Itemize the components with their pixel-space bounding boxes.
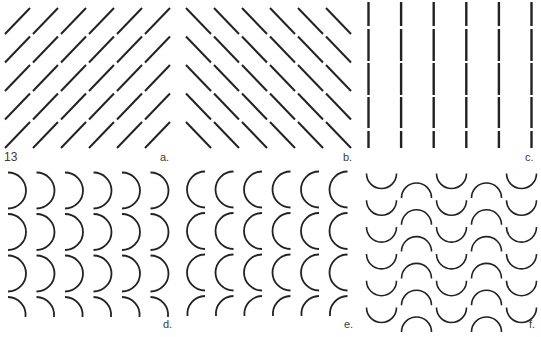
cup-arc (437, 174, 467, 189)
left-arc (330, 213, 348, 249)
right-arc (37, 214, 55, 250)
diagonal-segment (326, 65, 351, 91)
partial-left-arc (330, 296, 348, 316)
cup-arc (507, 254, 537, 269)
panel-e-left-arcs (187, 172, 348, 317)
cup-arc (437, 254, 467, 269)
diagonal-segment (298, 8, 323, 34)
diagonal-segment (117, 94, 142, 120)
diagonal-segment (89, 94, 114, 120)
right-arc (8, 173, 26, 209)
diagonal-segment (5, 94, 30, 120)
diagonal-segment (242, 94, 267, 120)
left-arc (216, 172, 234, 208)
right-arc (122, 214, 140, 250)
right-arc (8, 214, 26, 250)
right-arc (37, 256, 55, 292)
right-arc (151, 173, 169, 209)
diagonal-segment (214, 94, 239, 120)
right-arc (37, 173, 55, 209)
diagonal-segment (33, 94, 58, 120)
diagonal-segment (61, 94, 86, 120)
diagonal-segment (242, 65, 267, 91)
diagonal-segment (326, 94, 351, 120)
cup-arc (367, 254, 397, 269)
cup-arc (437, 308, 467, 323)
cup-arc (437, 227, 467, 242)
diagonal-segment (298, 65, 323, 91)
cap-arc (472, 317, 502, 332)
left-arc (301, 172, 319, 208)
cup-arc (507, 227, 537, 242)
diagonal-segment (117, 122, 142, 148)
cup-arc (507, 200, 537, 215)
diagonal-segment (117, 8, 142, 34)
left-arc (244, 255, 262, 291)
left-arc (301, 213, 319, 249)
diagonal-segment (145, 8, 170, 34)
diagonal-segment (33, 8, 58, 34)
diagonal-segment (186, 94, 211, 120)
partial-left-arc (273, 296, 291, 316)
left-arc (244, 213, 262, 249)
cap-arc (472, 290, 502, 305)
diagonal-segment (5, 122, 30, 148)
partial-left-arc (216, 296, 234, 316)
diagonal-segment (33, 37, 58, 63)
diagonal-segment (186, 8, 211, 34)
diagonal-segment (326, 37, 351, 63)
partial-right-arc (65, 297, 83, 317)
diagonal-segment (145, 65, 170, 91)
panel-a-label: a. (160, 152, 169, 163)
right-arc (151, 256, 169, 292)
diagonal-segment (89, 37, 114, 63)
panel-f-label: f. (529, 319, 535, 330)
panel-c-label: c. (525, 152, 534, 163)
cup-arc (507, 174, 537, 189)
diagonal-segment (145, 94, 170, 120)
left-arc (187, 172, 205, 208)
cap-arc (402, 317, 432, 332)
right-arc (122, 173, 140, 209)
right-arc (65, 173, 83, 209)
diagonal-segment (270, 8, 295, 34)
cup-arc (437, 281, 467, 296)
cap-arc (472, 183, 502, 198)
diagonal-segment (89, 65, 114, 91)
left-arc (244, 172, 262, 208)
cup-arc (367, 200, 397, 215)
cap-arc (472, 210, 502, 225)
partial-left-arc (301, 296, 319, 316)
cup-arc (437, 200, 467, 215)
diagonal-segment (117, 65, 142, 91)
diagonal-segment (270, 65, 295, 91)
partial-right-arc (122, 297, 140, 317)
panel-f-cup-cap-arcs (367, 174, 537, 333)
left-arc (216, 213, 234, 249)
diagonal-segment (186, 65, 211, 91)
diagonal-segment (298, 122, 323, 148)
cup-arc (367, 281, 397, 296)
partial-right-arc (151, 297, 169, 317)
cup-arc (367, 227, 397, 242)
diagonal-segment (89, 122, 114, 148)
partial-right-arc (37, 297, 55, 317)
cap-arc (402, 263, 432, 278)
right-arc (122, 256, 140, 292)
diagonal-segment (33, 65, 58, 91)
diagonal-segment (145, 37, 170, 63)
diagonal-segment (326, 8, 351, 34)
left-arc (273, 255, 291, 291)
pattern-canvas (0, 0, 541, 337)
diagonal-segment (186, 37, 211, 63)
left-arc (301, 255, 319, 291)
figure-13-line-patterns: 13 a. b. c. d. e. f. (0, 0, 541, 337)
diagonal-segment (298, 94, 323, 120)
diagonal-segment (214, 37, 239, 63)
diagonal-segment (5, 8, 30, 34)
panel-b-descending-diagonals (186, 8, 351, 148)
diagonal-segment (270, 37, 295, 63)
panel-b-label: b. (343, 152, 352, 163)
left-arc (273, 213, 291, 249)
cap-arc (402, 290, 432, 305)
